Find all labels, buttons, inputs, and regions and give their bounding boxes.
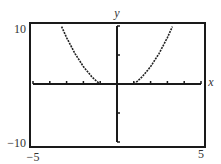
y-axis-label: y — [113, 6, 120, 20]
ymin-label: −10 — [7, 136, 26, 150]
x-axis-label: x — [207, 75, 214, 89]
xmax-label: 5 — [198, 147, 204, 161]
curve-left-branch — [62, 27, 101, 84]
graph-svg: 10 −10 −5 5 x y — [0, 0, 221, 164]
xmin-label: −5 — [27, 150, 40, 164]
ymax-label: 10 — [14, 22, 26, 36]
axes — [33, 26, 201, 142]
curve-right-branch — [134, 27, 173, 84]
